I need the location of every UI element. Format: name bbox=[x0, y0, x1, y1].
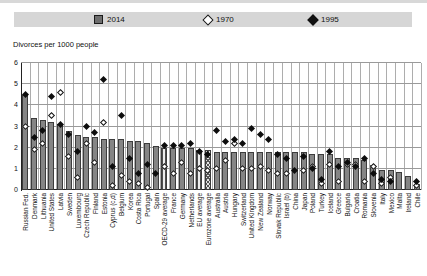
bar-Netherlands bbox=[188, 148, 194, 190]
x-axis-label-Costa Rica: Costa Rica bbox=[135, 193, 142, 273]
x-axis-label-Turkey: Turkey bbox=[318, 193, 325, 273]
x-axis-label-Iceland: Iceland bbox=[327, 193, 334, 273]
x-axis-label-Czech Republic: Czech Republic bbox=[83, 193, 90, 273]
x-axis-label-Latvia: Latvia bbox=[57, 193, 64, 273]
bar-Ireland bbox=[405, 176, 411, 190]
y-tick-label: 1 bbox=[4, 165, 18, 172]
vertical-gridline bbox=[404, 63, 405, 190]
bar-United States bbox=[48, 122, 54, 190]
chart-legend: 2014 1970 1995 bbox=[14, 12, 412, 27]
x-axis-label-Eurozone average: Eurozone average bbox=[205, 193, 212, 273]
x-axis-label-Switzerland: Switzerland bbox=[240, 193, 247, 273]
bar-Spain bbox=[153, 146, 159, 190]
x-axis-label-Chile: Chile bbox=[414, 193, 421, 273]
bar-Romania bbox=[361, 160, 367, 190]
vertical-gridline bbox=[412, 63, 413, 190]
1995-marker-Finland bbox=[91, 129, 98, 136]
1970-marker-Portugal bbox=[144, 184, 151, 191]
horizontal-gridline bbox=[21, 83, 421, 84]
bar-Sweden bbox=[66, 131, 72, 190]
x-axis-label-Slovenia: Slovenia bbox=[370, 193, 377, 273]
bar-Malta bbox=[396, 172, 402, 190]
x-axis-label-Croatia: Croatia bbox=[353, 193, 360, 273]
x-axis-label-United Kingdom: United Kingdom bbox=[248, 193, 255, 273]
y-tick-label: 5 bbox=[4, 80, 18, 87]
x-axis-label-China: China bbox=[292, 193, 299, 273]
1995-marker-Norway bbox=[265, 136, 272, 143]
bar-Belgium bbox=[118, 139, 124, 190]
plot-area bbox=[21, 63, 421, 190]
x-axis-label-United States: United States bbox=[48, 193, 55, 273]
legend-item-2014: 2014 bbox=[94, 12, 125, 27]
x-axis-label-Japan: Japan bbox=[301, 193, 308, 273]
x-axis-label-OECD-29 average: OECD-29 average bbox=[161, 193, 168, 273]
x-axis-label-Romania: Romania bbox=[361, 193, 368, 273]
1995-marker-Australia bbox=[213, 127, 220, 134]
x-axis-label-Austria: Austria bbox=[222, 193, 229, 273]
y-tick-label: 2 bbox=[4, 144, 18, 151]
legend-label-1970: 1970 bbox=[216, 15, 234, 24]
bar-Iceland bbox=[327, 154, 333, 190]
x-axis-label-Belgium: Belgium bbox=[118, 193, 125, 273]
x-axis-label-Australia: Australia bbox=[214, 193, 221, 273]
x-axis-label-Ireland: Ireland bbox=[405, 193, 412, 273]
x-axis-label-Finland: Finland bbox=[92, 193, 99, 273]
x-axis-label-Sweden: Sweden bbox=[66, 193, 73, 273]
bar-Germany bbox=[179, 148, 185, 190]
x-axis-label-New Zealand: New Zealand bbox=[257, 193, 264, 273]
x-axis-label-Russian Fed.: Russian Fed. bbox=[22, 193, 29, 273]
x-axis-label-Lithuania: Lithuania bbox=[40, 193, 47, 273]
x-axis-label-Estonia: Estonia bbox=[101, 193, 108, 273]
x-axis-label-Germany: Germany bbox=[179, 193, 186, 273]
x-axis-label-Luxembourg: Luxembourg bbox=[75, 193, 82, 273]
1970-marker-Latvia bbox=[57, 89, 64, 96]
1995-marker-Austria bbox=[222, 138, 229, 145]
horizontal-gridline bbox=[21, 62, 421, 63]
x-axis-label-Israel (b): Israel (b) bbox=[283, 193, 290, 273]
x-axis-label-Bulgaria: Bulgaria bbox=[344, 193, 351, 273]
x-axis-label-Hungary: Hungary bbox=[231, 193, 238, 273]
x-axis-label-Italy: Italy bbox=[379, 193, 386, 273]
x-axis-label-EU average: EU average bbox=[196, 193, 203, 273]
divorce-rate-chart-page: { "subtitle": "Divorces per 1000 people"… bbox=[0, 0, 427, 276]
gray-square-icon bbox=[94, 15, 103, 24]
bar-Hungary bbox=[231, 152, 237, 190]
x-axis-label-Norway: Norway bbox=[266, 193, 273, 273]
y-axis-line bbox=[21, 63, 22, 191]
y-tick-label: 0 bbox=[4, 186, 18, 193]
bar-Denmark bbox=[31, 118, 37, 190]
legend-item-1995: 1995 bbox=[309, 12, 339, 27]
y-tick-label: 4 bbox=[4, 101, 18, 108]
legend-label-1995: 1995 bbox=[321, 15, 339, 24]
bar-Latvia bbox=[57, 124, 63, 190]
x-axis-label-Poland: Poland bbox=[309, 193, 316, 273]
x-axis-label-Netherlands: Netherlands bbox=[188, 193, 195, 273]
bar-Luxembourg bbox=[75, 135, 81, 190]
page-top-border bbox=[0, 0, 427, 3]
y-tick-label: 6 bbox=[4, 59, 18, 66]
vertical-gridline bbox=[421, 63, 422, 190]
legend-item-1970: 1970 bbox=[204, 12, 234, 27]
x-axis-label-Portugal: Portugal bbox=[144, 193, 151, 273]
horizontal-gridline bbox=[21, 104, 421, 105]
x-axis-label-Malta: Malta bbox=[396, 193, 403, 273]
bar-Russian Fed. bbox=[22, 95, 28, 190]
bar-Estonia bbox=[101, 139, 107, 190]
bar-New Zealand bbox=[257, 152, 263, 190]
1970-marker-United States bbox=[48, 112, 55, 119]
legend-label-2014: 2014 bbox=[107, 15, 125, 24]
x-axis-label-Mexico: Mexico bbox=[388, 193, 395, 273]
x-axis-label-Greece: Greece bbox=[335, 193, 342, 273]
1995-marker-Belgium bbox=[117, 112, 124, 119]
white-diamond-icon bbox=[202, 14, 213, 25]
vertical-gridline bbox=[395, 63, 396, 190]
x-axis-label-Cyprus (c,d): Cyprus (c,d) bbox=[109, 193, 116, 273]
x-axis-label-Denmark: Denmark bbox=[31, 193, 38, 273]
1995-marker-United States bbox=[48, 93, 55, 100]
1995-marker-New Zealand bbox=[257, 131, 264, 138]
y-axis-title: Divorces per 1000 people bbox=[13, 40, 98, 49]
1995-marker-Czech Republic bbox=[83, 123, 90, 130]
y-tick-label: 3 bbox=[4, 123, 18, 130]
black-diamond-icon bbox=[307, 14, 318, 25]
x-axis-label-France: France bbox=[170, 193, 177, 273]
